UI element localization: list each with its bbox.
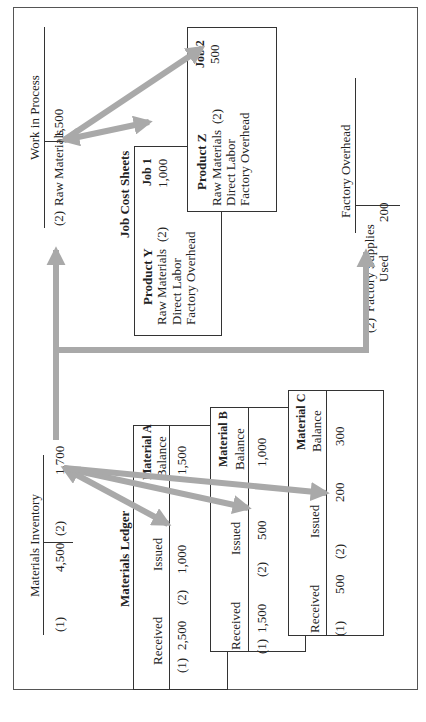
arrow-mi-to-fo (56, 252, 366, 350)
flow-arrows (0, 0, 426, 722)
